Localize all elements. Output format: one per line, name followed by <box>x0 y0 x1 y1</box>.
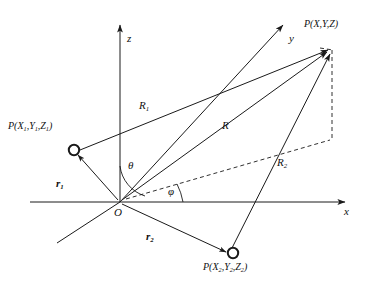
angle-label-theta: θ <box>128 160 133 171</box>
axis-label-x: x <box>344 206 349 217</box>
field-point-label: P(X,Y,Z) <box>304 19 338 29</box>
segment-label-R-text: R <box>222 119 229 131</box>
source-point-1-marker <box>69 145 79 155</box>
vector-R1 <box>80 50 328 150</box>
source-point-2-label: P(X2,Y2,Z2) <box>203 262 247 273</box>
segment-label-R2-text: R2 <box>277 156 287 168</box>
figure-canvas: z y x O θ φ P(X,Y,Z) P(X1,Y1,Z1) P(X2,Y2… <box>0 0 371 288</box>
segment-label-R2: R2 <box>277 157 287 170</box>
origin-label: O <box>114 207 122 218</box>
vector-r1 <box>78 155 118 200</box>
vector-label-r1-text: r1 <box>56 177 64 189</box>
source-point-1-label: P(X1,Y1,Z1) <box>8 121 52 132</box>
source-point-2-label-text: P(X2,Y2,Z2) <box>203 261 247 272</box>
segment-label-R1-text: R1 <box>139 99 149 111</box>
angle-label-phi: φ <box>168 186 174 197</box>
source-point-2-marker <box>228 248 238 258</box>
segment-label-R1: R1 <box>139 100 149 113</box>
vector-label-r2: r2 <box>146 231 154 244</box>
axis-label-z: z <box>127 33 131 44</box>
axis-label-y: y <box>289 33 294 44</box>
axis-y <box>120 25 283 202</box>
vector-label-r2-text: r2 <box>146 230 154 242</box>
source-point-1-label-text: P(X1,Y1,Z1) <box>8 120 52 131</box>
vector-label-r1: r1 <box>56 178 64 191</box>
vector-diagram-svg <box>0 0 371 288</box>
axis-y-negative-stub <box>57 202 120 243</box>
segment-label-R: R <box>222 120 229 131</box>
vector-r2 <box>122 204 226 252</box>
angle-phi-arc <box>177 184 183 202</box>
